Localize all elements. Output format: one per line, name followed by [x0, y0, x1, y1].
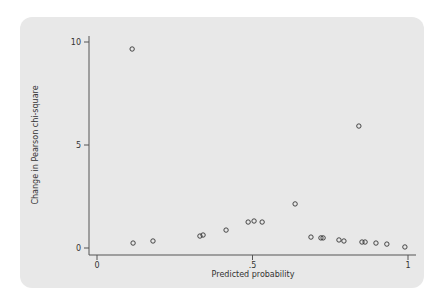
data-point-marker	[385, 242, 389, 246]
data-point-marker	[374, 241, 378, 245]
data-point-marker	[224, 228, 228, 232]
data-point-marker	[363, 240, 367, 244]
data-points	[130, 47, 407, 249]
data-point-marker	[131, 241, 135, 245]
data-point-marker	[151, 239, 155, 243]
data-point-marker	[403, 245, 407, 249]
x-tick-label: 1	[405, 261, 410, 270]
x-axis-title: Predicted probability	[212, 270, 295, 279]
data-point-marker	[252, 219, 256, 223]
data-point-marker	[246, 220, 250, 224]
data-point-marker	[342, 239, 346, 243]
data-point-marker	[130, 47, 134, 51]
y-tick-label: 5	[76, 141, 81, 150]
data-point-marker	[337, 238, 341, 242]
scatter-chart: 0510 0.51 Predicted probability Change i…	[0, 0, 442, 302]
x-tick-label: 0	[94, 261, 99, 270]
data-point-marker	[260, 220, 264, 224]
y-tick-label: 0	[76, 244, 81, 253]
data-point-marker	[309, 235, 313, 239]
data-point-marker	[293, 202, 297, 206]
y-ticks: 0510	[71, 38, 89, 253]
x-ticks: 0.51	[94, 255, 410, 270]
x-tick-label: .5	[249, 261, 257, 270]
y-tick-label: 10	[71, 38, 81, 47]
y-axis-title: Change in Pearson chi-square	[31, 85, 40, 204]
data-point-marker	[357, 124, 361, 128]
